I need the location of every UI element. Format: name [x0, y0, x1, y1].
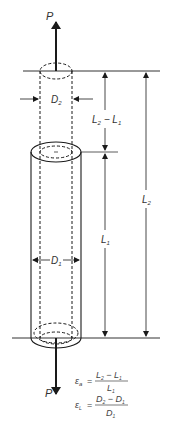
svg-text:=: = [87, 376, 92, 386]
label-l1: L1 [101, 234, 110, 246]
label-l2: L2 [142, 194, 152, 206]
original-specimen [31, 142, 81, 348]
svg-text:L1: L1 [107, 383, 115, 394]
svg-text:εL: εL [75, 400, 82, 411]
label-force-bottom: P [45, 387, 53, 399]
label-d2: D2 [51, 94, 62, 106]
tensile-strain-diagram: D2 D1 L2 − L1 L1 L2 P P εa = L2 [0, 0, 174, 427]
label-d1: D1 [51, 255, 62, 267]
svg-text:D1: D1 [106, 408, 116, 419]
label-l2-minus-l1: L2 − L1 [92, 114, 121, 126]
svg-text:D2 − D1: D2 − D1 [96, 394, 125, 405]
equation-lateral-strain: εL = D2 − D1 D1 [75, 394, 128, 419]
svg-text:=: = [87, 400, 92, 410]
svg-text:L2 − L1: L2 − L1 [96, 370, 122, 381]
label-force-top: P [46, 10, 54, 22]
elongated-specimen-outline [34, 63, 78, 344]
svg-text:εa: εa [75, 376, 83, 387]
equation-axial-strain: εa = L2 − L1 L1 [75, 370, 128, 394]
